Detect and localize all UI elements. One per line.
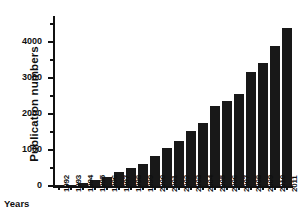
y-tick-label: 4000 <box>22 36 42 46</box>
bar <box>258 63 267 186</box>
x-category-label: 1994 <box>86 175 95 192</box>
x-category-label: 2007 <box>242 175 251 192</box>
bar <box>282 28 291 186</box>
x-tick <box>58 186 60 190</box>
y-tick-minor <box>50 95 53 96</box>
x-category-label: 1999 <box>146 175 155 192</box>
bar <box>210 106 219 186</box>
y-axis-title: Publication numbers <box>28 24 40 184</box>
bar <box>246 72 255 186</box>
bar <box>234 94 243 186</box>
y-tick-minor <box>50 131 53 132</box>
x-category-label: 1997 <box>122 175 131 192</box>
publication-numbers-bar-chart: Publication numbers Years 01000200030004… <box>0 0 305 221</box>
y-tick-major: 3000 <box>48 77 53 79</box>
x-category-label: 2006 <box>230 175 239 192</box>
x-category-label: 2009 <box>266 175 275 192</box>
y-tick-major: 2000 <box>48 113 53 115</box>
x-category-label: 2010 <box>278 175 287 192</box>
y-axis-line <box>53 16 55 186</box>
x-category-label: 1995 <box>98 175 107 192</box>
y-tick-label: 0 <box>37 180 42 190</box>
x-category-label: 2000 <box>158 175 167 192</box>
x-category-label: 1992 <box>62 175 71 192</box>
x-category-label: 2008 <box>254 175 263 192</box>
y-tick-label: 2000 <box>22 108 42 118</box>
y-tick-major: 4000 <box>48 41 53 43</box>
x-category-label: 2005 <box>218 175 227 192</box>
x-category-label: 1998 <box>134 175 143 192</box>
bar <box>270 46 279 186</box>
y-tick-minor <box>50 167 53 168</box>
y-tick-minor <box>50 59 53 60</box>
x-axis-title: Years <box>4 198 29 209</box>
x-category-label: 2004 <box>206 175 215 192</box>
x-category-label: 1996 <box>110 175 119 192</box>
x-category-label: 2002 <box>182 175 191 192</box>
y-tick-label: 1000 <box>22 144 42 154</box>
y-tick-minor <box>50 23 53 24</box>
x-category-label: 1993 <box>74 175 83 192</box>
y-tick-major: 1000 <box>48 149 53 151</box>
y-tick-label: 3000 <box>22 72 42 82</box>
x-category-label: 2011 <box>290 175 299 192</box>
x-category-label: 2003 <box>194 175 203 192</box>
plot-area: 01000200030004000 1992199319941995199619… <box>53 16 293 186</box>
bar <box>222 101 231 186</box>
x-category-label: 2001 <box>170 175 179 192</box>
y-tick-major: 0 <box>48 185 53 187</box>
